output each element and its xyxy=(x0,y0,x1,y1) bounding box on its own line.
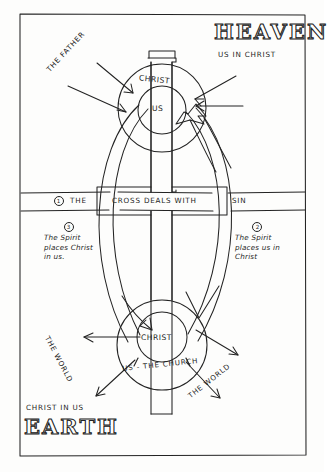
marker-3: 3 xyxy=(64,222,74,232)
band-line-top-b xyxy=(118,192,212,193)
note-3-line-3: in us. xyxy=(44,252,93,262)
lower-inner-circle-label: CHRIST xyxy=(141,333,172,342)
band-line-top-c xyxy=(228,192,305,193)
note-2-line-2: places us in xyxy=(235,243,280,253)
band-left-marker: 1 THE xyxy=(54,196,87,206)
note-2: 2 The Spirit places us in Christ xyxy=(235,214,280,262)
earth-subtitle: CHRIST IN US xyxy=(26,403,84,412)
note-3-line-2: places Christ xyxy=(44,243,93,253)
loop-left-inner xyxy=(113,109,148,335)
band-line-bottom-a xyxy=(21,210,109,211)
band-center-text: CROSS DEALS WITH xyxy=(112,196,197,205)
v-branch xyxy=(186,286,219,318)
heaven-title: HEAVEN xyxy=(214,19,328,44)
marker-2: 2 xyxy=(252,222,262,232)
upper-inner-circle-label: US xyxy=(152,104,163,113)
band-left-text: THE xyxy=(70,196,87,205)
note-3: 3 The Spirit places Christ in us. xyxy=(44,214,93,262)
earth-title: EARTH xyxy=(24,414,119,439)
father-arrow-1 xyxy=(97,63,133,93)
note-3-line-1: The Spirit xyxy=(44,233,93,243)
marker-1: 1 xyxy=(54,196,64,206)
cross-top-cap xyxy=(149,51,175,58)
father-arrow-2 xyxy=(68,86,126,112)
church-arrow-ur xyxy=(196,330,238,355)
band-right-text: SIN xyxy=(232,196,246,205)
note-2-line-3: Christ xyxy=(235,252,280,262)
band-line-bottom-c xyxy=(231,210,305,211)
note-2-line-1: The Spirit xyxy=(235,233,280,243)
heaven-subtitle: US IN CHRIST xyxy=(218,50,276,59)
band-line-bottom-b xyxy=(120,210,213,211)
lower-outer-circle xyxy=(117,300,207,390)
down-arrow-body xyxy=(122,296,152,330)
